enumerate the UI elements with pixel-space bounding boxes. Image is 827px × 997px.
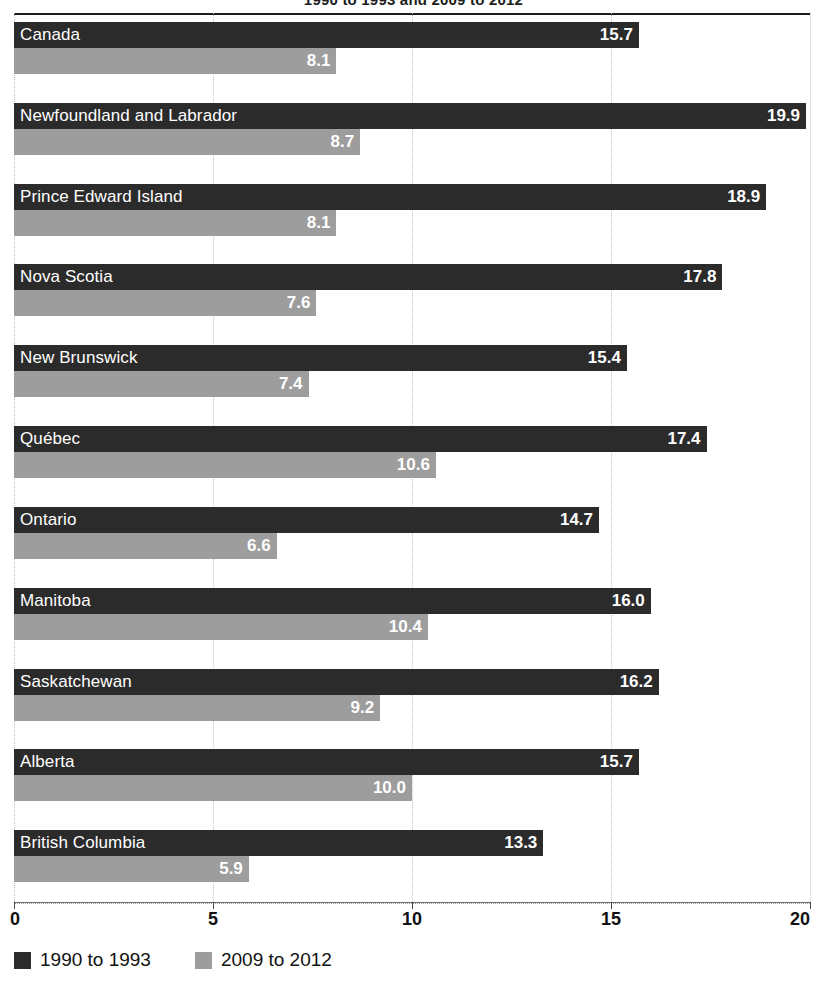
value-label-2009-2012: 10.0 xyxy=(373,775,406,801)
x-tick-5 xyxy=(213,902,214,909)
bar-1990-1993: Québec17.4 xyxy=(14,426,707,452)
value-label-2009-2012: 10.6 xyxy=(397,452,430,478)
category-label: Nova Scotia xyxy=(20,264,113,290)
bar-2009-2012: 8.7 xyxy=(14,129,360,155)
bar-group: Saskatchewan16.29.2 xyxy=(14,669,810,721)
value-label-1990-1993: 14.7 xyxy=(560,507,593,533)
category-label: Canada xyxy=(20,22,80,48)
value-label-2009-2012: 10.4 xyxy=(389,614,422,640)
bar-group: Québec17.410.6 xyxy=(14,426,810,478)
category-label: New Brunswick xyxy=(20,345,138,371)
bar-group: Alberta15.710.0 xyxy=(14,749,810,801)
value-label-1990-1993: 15.7 xyxy=(600,22,633,48)
value-label-1990-1993: 15.7 xyxy=(600,749,633,775)
bar-2009-2012: 10.0 xyxy=(14,775,412,801)
value-label-1990-1993: 17.4 xyxy=(667,426,700,452)
x-tick-10 xyxy=(412,902,413,909)
bar-2009-2012: 8.1 xyxy=(14,210,336,236)
category-label: Ontario xyxy=(20,507,76,533)
x-tick-label-0: 0 xyxy=(10,909,20,930)
bar-2009-2012: 6.6 xyxy=(14,533,277,559)
x-tick-label-15: 15 xyxy=(601,909,621,930)
value-label-2009-2012: 6.6 xyxy=(247,533,271,559)
plot-area: Canada15.78.1Newfoundland and Labrador19… xyxy=(14,13,810,902)
category-label: Prince Edward Island xyxy=(20,184,183,210)
value-label-1990-1993: 16.2 xyxy=(620,669,653,695)
bar-2009-2012: 7.6 xyxy=(14,290,316,316)
category-label: Saskatchewan xyxy=(20,669,132,695)
value-label-2009-2012: 7.4 xyxy=(279,371,303,397)
gridline-20 xyxy=(810,13,811,902)
chart-legend: 1990 to 1993 2009 to 2012 xyxy=(14,947,376,973)
value-label-2009-2012: 7.6 xyxy=(287,290,311,316)
category-label: Manitoba xyxy=(20,588,91,614)
value-label-1990-1993: 18.9 xyxy=(727,184,760,210)
bar-group: Ontario14.76.6 xyxy=(14,507,810,559)
x-tick-20 xyxy=(810,902,811,909)
bar-group: Canada15.78.1 xyxy=(14,22,810,74)
value-label-2009-2012: 9.2 xyxy=(351,695,375,721)
bar-group: Prince Edward Island18.98.1 xyxy=(14,184,810,236)
category-label: Alberta xyxy=(20,749,75,775)
bar-1990-1993: Nova Scotia17.8 xyxy=(14,264,722,290)
bar-2009-2012: 8.1 xyxy=(14,48,336,74)
bar-1990-1993: Ontario14.7 xyxy=(14,507,599,533)
bar-1990-1993: Prince Edward Island18.9 xyxy=(14,184,766,210)
category-label: British Columbia xyxy=(20,830,145,856)
x-tick-label-20: 20 xyxy=(790,909,810,930)
value-label-1990-1993: 17.8 xyxy=(683,264,716,290)
value-label-2009-2012: 5.9 xyxy=(219,856,243,882)
bar-group: British Columbia13.35.9 xyxy=(14,830,810,882)
bar-2009-2012: 7.4 xyxy=(14,371,309,397)
bar-group: Manitoba16.010.4 xyxy=(14,588,810,640)
bar-1990-1993: Saskatchewan16.2 xyxy=(14,669,659,695)
category-label: Québec xyxy=(20,426,80,452)
bar-group: Nova Scotia17.87.6 xyxy=(14,264,810,316)
bar-1990-1993: Newfoundland and Labrador19.9 xyxy=(14,103,806,129)
legend-swatch-dark-icon xyxy=(14,952,31,969)
bar-1990-1993: Manitoba16.0 xyxy=(14,588,651,614)
bar-2009-2012: 5.9 xyxy=(14,856,249,882)
value-label-2009-2012: 8.1 xyxy=(307,210,331,236)
bar-1990-1993: Canada15.7 xyxy=(14,22,639,48)
bar-group: New Brunswick15.47.4 xyxy=(14,345,810,397)
category-label: Newfoundland and Labrador xyxy=(20,103,237,129)
bar-1990-1993: British Columbia13.3 xyxy=(14,830,543,856)
value-label-2009-2012: 8.1 xyxy=(307,48,331,74)
value-label-1990-1993: 13.3 xyxy=(504,830,537,856)
legend-swatch-light-icon xyxy=(195,952,212,969)
bar-2009-2012: 10.6 xyxy=(14,452,436,478)
x-tick-label-5: 5 xyxy=(208,909,218,930)
bar-1990-1993: New Brunswick15.4 xyxy=(14,345,627,371)
x-tick-15 xyxy=(611,902,612,909)
legend-item-1990-1993: 1990 to 1993 xyxy=(14,949,151,971)
bar-group: Newfoundland and Labrador19.98.7 xyxy=(14,103,810,155)
legend-item-2009-2012: 2009 to 2012 xyxy=(195,949,332,971)
x-tick-label-10: 10 xyxy=(402,909,422,930)
clipped-chart-title: 1990 to 1993 and 2009 to 2012 xyxy=(0,0,827,5)
bar-1990-1993: Alberta15.7 xyxy=(14,749,639,775)
value-label-2009-2012: 8.7 xyxy=(331,129,355,155)
bar-2009-2012: 9.2 xyxy=(14,695,380,721)
chart-figure: 1990 to 1993 and 2009 to 2012 Canada15.7… xyxy=(0,0,827,997)
value-label-1990-1993: 15.4 xyxy=(588,345,621,371)
legend-label-2009-2012: 2009 to 2012 xyxy=(221,949,332,971)
legend-label-1990-1993: 1990 to 1993 xyxy=(40,949,151,971)
value-label-1990-1993: 19.9 xyxy=(767,103,800,129)
x-tick-0 xyxy=(14,902,15,909)
value-label-1990-1993: 16.0 xyxy=(612,588,645,614)
bar-2009-2012: 10.4 xyxy=(14,614,428,640)
